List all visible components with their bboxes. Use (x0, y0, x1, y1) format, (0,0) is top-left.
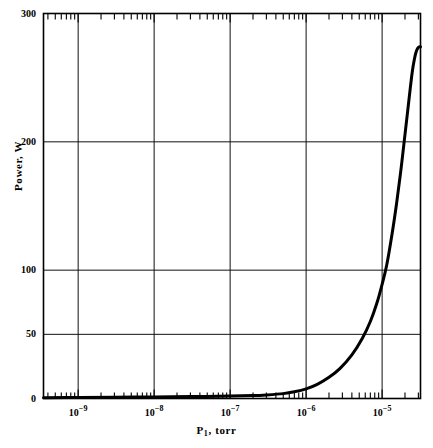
x-axis-label-unit: , torr (208, 424, 236, 436)
x-tick-exponent: −7 (231, 404, 240, 413)
figure-container: Power, W P1, torr 050100200300 10−910−81… (0, 0, 433, 448)
x-axis-label: P1, torr (0, 424, 433, 438)
x-tick-mantissa: 10 (145, 407, 155, 418)
x-tick-label: 10−7 (207, 404, 253, 418)
y-tick-label: 50 (2, 328, 36, 339)
x-tick-label: 10−6 (283, 404, 329, 418)
y-tick-label: 300 (2, 8, 36, 19)
x-tick-label: 10−5 (359, 404, 405, 418)
x-tick-mantissa: 10 (373, 407, 383, 418)
x-tick-exponent: −9 (79, 404, 88, 413)
x-tick-exponent: −6 (307, 404, 316, 413)
x-tick-mantissa: 10 (297, 407, 307, 418)
plot-background (0, 0, 433, 448)
chart-canvas (0, 0, 433, 448)
x-tick-exponent: −5 (383, 404, 392, 413)
x-tick-label: 10−8 (131, 404, 177, 418)
x-tick-mantissa: 10 (69, 407, 79, 418)
y-tick-label: 200 (2, 136, 36, 147)
x-axis-label-base: P (197, 424, 204, 436)
y-tick-label: 100 (2, 264, 36, 275)
x-tick-exponent: −8 (155, 404, 164, 413)
x-tick-mantissa: 10 (221, 407, 231, 418)
x-tick-label: 10−9 (55, 404, 101, 418)
y-tick-label: 0 (2, 393, 36, 404)
